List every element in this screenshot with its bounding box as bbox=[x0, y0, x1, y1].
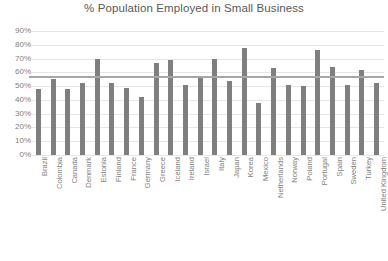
bar bbox=[198, 76, 203, 155]
y-axis-tick-label: 10% bbox=[3, 137, 31, 145]
bar bbox=[183, 85, 188, 155]
x-axis-tick-label: Poland bbox=[306, 157, 314, 181]
bar bbox=[168, 60, 173, 155]
x-axis-tick-label: Italy bbox=[218, 157, 226, 171]
bar bbox=[65, 89, 70, 155]
bar bbox=[124, 88, 129, 156]
chart-title: % Population Employed in Small Business bbox=[0, 2, 388, 14]
y-axis-tick-label: 0% bbox=[3, 151, 31, 159]
y-axis-tick-label: 50% bbox=[3, 82, 31, 90]
bar bbox=[256, 103, 261, 155]
bar bbox=[301, 86, 306, 155]
bar bbox=[315, 50, 320, 155]
x-axis-tick-label: Estonia bbox=[100, 157, 108, 182]
x-axis-tick-label: Israel bbox=[203, 157, 211, 176]
y-axis-tick-label: 90% bbox=[3, 27, 31, 35]
bar bbox=[359, 70, 364, 155]
x-axis: BrazilColombiaCanadaDenmarkEstoniaFinlan… bbox=[31, 157, 384, 261]
bar bbox=[95, 59, 100, 155]
y-axis: 90%80%70%60%50%40%30%20%10%0% bbox=[0, 0, 31, 261]
bar bbox=[227, 81, 232, 155]
x-axis-tick-label: Netherlands bbox=[277, 157, 285, 198]
x-axis-tick-label: Mexico bbox=[262, 157, 270, 181]
y-axis-tick-label: 70% bbox=[3, 55, 31, 63]
bar bbox=[374, 83, 379, 155]
x-axis-tick-label: Denmark bbox=[85, 157, 93, 188]
y-axis-tick-label: 80% bbox=[3, 41, 31, 49]
y-axis-tick-label: 20% bbox=[3, 123, 31, 131]
x-axis-tick-label: Sweden bbox=[350, 157, 358, 184]
x-axis-tick-label: Turkey bbox=[365, 157, 373, 180]
x-axis-tick-label: Iceland bbox=[174, 157, 182, 182]
x-axis-tick-label: Korea bbox=[247, 157, 255, 177]
y-axis-tick-label: 30% bbox=[3, 110, 31, 118]
x-axis-tick-label: Greece bbox=[159, 157, 167, 182]
x-axis-tick-label: Spain bbox=[336, 157, 344, 176]
bar bbox=[80, 83, 85, 155]
x-axis-tick-label: Norway bbox=[291, 157, 299, 183]
x-axis-tick-label: Japan bbox=[233, 157, 241, 178]
x-axis-tick-label: Portugal bbox=[321, 157, 329, 185]
bar bbox=[330, 67, 335, 155]
x-axis-tick-label: Germany bbox=[144, 157, 152, 188]
bar bbox=[139, 97, 144, 155]
x-axis-tick-label: Finland bbox=[115, 157, 123, 182]
bar bbox=[109, 83, 114, 155]
bar bbox=[242, 48, 247, 155]
x-axis-tick-label: France bbox=[130, 157, 138, 181]
bar bbox=[212, 59, 217, 155]
plot-area bbox=[31, 31, 384, 155]
y-axis-tick-label: 40% bbox=[3, 96, 31, 104]
x-axis-tick-label: Ireland bbox=[188, 157, 196, 180]
bar-series bbox=[31, 31, 384, 155]
bar bbox=[286, 85, 291, 155]
bar bbox=[345, 85, 350, 155]
x-axis-tick-label: Colombia bbox=[56, 157, 64, 189]
average-reference-line bbox=[29, 76, 384, 78]
x-axis-tick-label: Canada bbox=[71, 157, 79, 184]
bar bbox=[271, 68, 276, 155]
bar-chart: % Population Employed in Small Business … bbox=[0, 0, 388, 261]
x-axis-tick-label: Brazil bbox=[41, 157, 49, 176]
x-axis-tick-label: United Kingdom bbox=[380, 157, 388, 211]
bar bbox=[36, 89, 41, 155]
y-axis-tick-label: 60% bbox=[3, 68, 31, 76]
bar bbox=[51, 79, 56, 155]
